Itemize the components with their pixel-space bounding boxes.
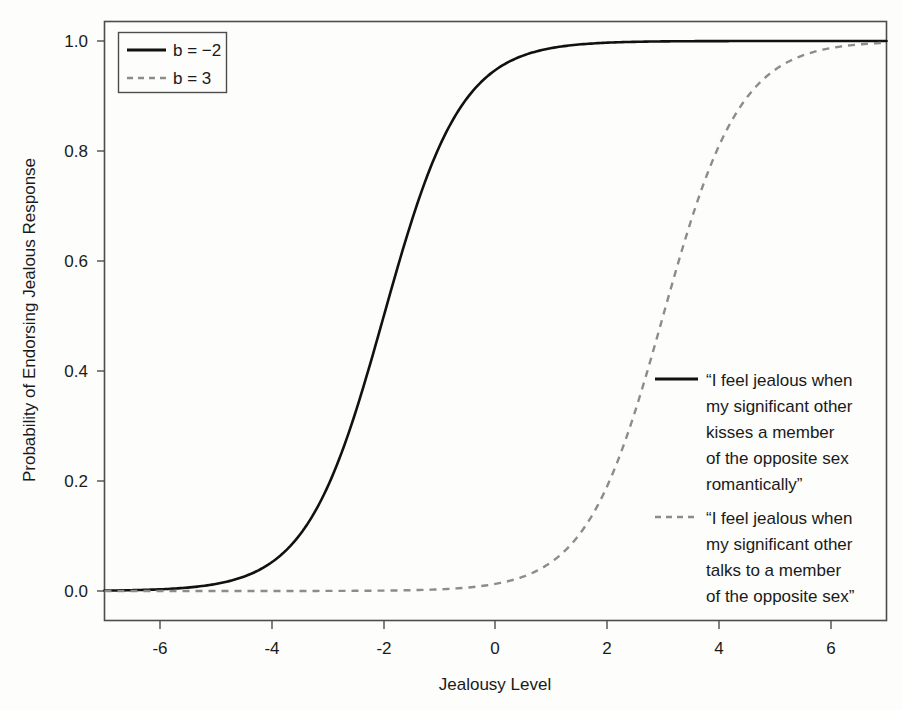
y-tick-label: 0.6	[64, 252, 88, 271]
annotation-line: my significant other	[706, 397, 853, 416]
legend-label: b = 3	[173, 69, 211, 88]
item-characteristic-curve-chart: 1.0 0.8 0.6 0.4 0.2 0.0 Probability of E…	[0, 0, 902, 710]
y-tick-label: 0.2	[64, 472, 88, 491]
annotation-line: “I feel jealous when	[706, 509, 852, 528]
annotation-solid-curve: “I feel jealous when my significant othe…	[655, 371, 853, 494]
x-tick-label: 4	[714, 639, 723, 658]
x-tick-label: 2	[602, 639, 611, 658]
x-tick-label: -4	[264, 639, 279, 658]
x-tick-label: -6	[152, 639, 167, 658]
legend: b = −2 b = 3	[119, 33, 227, 93]
annotation-line: romantically”	[706, 475, 803, 494]
x-tick-label: -2	[376, 639, 391, 658]
x-tick-label: 0	[490, 639, 499, 658]
annotation-line: of the opposite sex”	[706, 587, 855, 606]
y-tick-label: 0.0	[64, 582, 88, 601]
annotation-line: my significant other	[706, 535, 853, 554]
legend-label: b = −2	[173, 41, 221, 60]
x-axis-title: Jealousy Level	[439, 675, 551, 694]
y-tick-label: 1.0	[64, 32, 88, 51]
annotation-line: of the opposite sex	[706, 449, 849, 468]
annotation-line: kisses a member	[706, 423, 835, 442]
annotation-dashed-curve: “I feel jealous when my significant othe…	[655, 509, 855, 606]
annotation-line: “I feel jealous when	[706, 371, 852, 390]
chart-page: 1.0 0.8 0.6 0.4 0.2 0.0 Probability of E…	[0, 0, 902, 710]
x-axis-ticks	[160, 620, 831, 629]
plot-frame	[105, 22, 887, 621]
y-tick-label: 0.8	[64, 142, 88, 161]
x-tick-label: 6	[826, 639, 835, 658]
y-tick-label: 0.4	[64, 362, 88, 381]
annotation-line: talks to a member	[706, 561, 841, 580]
y-axis-ticks	[97, 41, 104, 591]
y-axis-title: Probability of Endorsing Jealous Respons…	[20, 158, 39, 482]
